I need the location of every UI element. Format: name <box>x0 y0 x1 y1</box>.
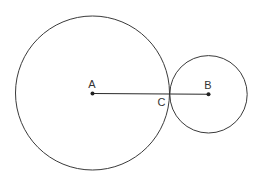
label-b: B <box>204 79 211 91</box>
point-a-dot <box>91 92 95 96</box>
segment-ab <box>93 94 209 95</box>
tangent-circles-diagram: A B C <box>0 0 260 181</box>
label-c: C <box>158 96 166 108</box>
label-a: A <box>88 78 96 90</box>
point-b-dot <box>207 92 211 96</box>
